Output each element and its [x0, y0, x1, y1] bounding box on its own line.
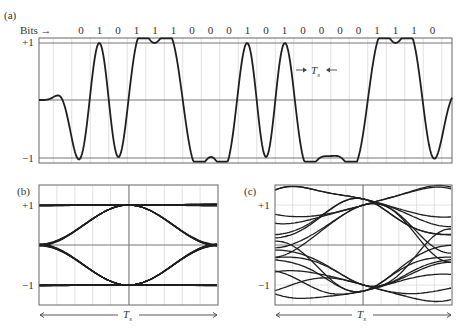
- ts-span: Ts: [276, 308, 451, 323]
- eye-trace: [39, 204, 217, 244]
- y-label-minus-one: −1: [258, 279, 270, 291]
- eye-trace: [39, 245, 217, 285]
- bit-label: 0: [319, 24, 325, 36]
- eye-trace: [39, 245, 217, 285]
- eye-trace: [39, 205, 217, 246]
- panel-b: (b) +1 −1 Ts: [17, 185, 218, 323]
- eye-trace: [39, 205, 217, 245]
- bit-label: 0: [356, 24, 362, 36]
- bits-row: 01011100010100001110: [78, 24, 436, 36]
- y-label-plus-one: +1: [258, 199, 270, 211]
- panel-c-tag: (c): [244, 185, 257, 198]
- bit-label: 0: [115, 24, 121, 36]
- eye-trace: [39, 245, 217, 286]
- ts-label: Ts: [123, 308, 132, 323]
- arrow-right-head-icon: [303, 68, 307, 73]
- panel-a: (a) Bits → 01011100010100001110 +1 −1 Ts: [4, 9, 452, 164]
- figure: (a) Bits → 01011100010100001110 +1 −1 Ts…: [0, 0, 467, 334]
- eye-trace: [39, 244, 217, 285]
- y-label-minus-one: −1: [22, 152, 34, 164]
- ts-span: Ts: [40, 308, 217, 323]
- eye-trace: [39, 205, 217, 246]
- bit-label: 0: [78, 24, 84, 36]
- y-label-minus-one: −1: [22, 279, 34, 291]
- bit-label: 1: [393, 24, 399, 36]
- bit-label: 0: [226, 24, 232, 36]
- arrow-left-head-icon: [326, 68, 330, 73]
- y-label-plus-one: +1: [22, 199, 34, 211]
- bit-label: 0: [430, 24, 436, 36]
- eye-trace: [39, 205, 217, 246]
- eye-trace: [39, 245, 217, 285]
- eye-trace: [39, 205, 217, 246]
- bit-label: 1: [374, 24, 380, 36]
- eye-trace: [39, 246, 217, 285]
- eye-trace: [39, 205, 217, 244]
- bit-label: 0: [300, 24, 306, 36]
- eye-trace: [39, 205, 217, 245]
- bit-label: 0: [189, 24, 195, 36]
- panel-c: (c) +1 −1 Ts: [244, 185, 452, 323]
- bits-label: Bits →: [20, 24, 51, 36]
- panel-a-tag: (a): [4, 9, 17, 22]
- bit-label: 0: [263, 24, 269, 36]
- bit-label: 1: [282, 24, 288, 36]
- panel-b-tag: (b): [17, 185, 30, 198]
- bit-label: 1: [411, 24, 417, 36]
- bit-label: 1: [171, 24, 177, 36]
- ts-label: Ts: [357, 308, 366, 323]
- bit-label: 1: [245, 24, 251, 36]
- bit-label: 1: [97, 24, 103, 36]
- bit-label: 0: [208, 24, 214, 36]
- y-label-plus-one: +1: [22, 36, 34, 48]
- bit-label: 1: [152, 24, 158, 36]
- bit-label: 0: [337, 24, 343, 36]
- bit-label: 1: [134, 24, 140, 36]
- eye-trace: [39, 244, 217, 286]
- eye-trace: [39, 244, 217, 285]
- eye-trace: [39, 205, 217, 245]
- eye-trace: [39, 205, 217, 206]
- eye-trace: [39, 245, 217, 285]
